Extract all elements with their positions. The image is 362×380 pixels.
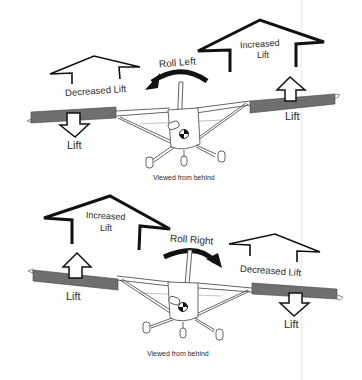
increased-lift-label-line2-bottom: Lift [100, 223, 112, 233]
decreased-lift-big-arrow-icon-bottom [229, 234, 320, 262]
increased-lift-label-line1-bottom: Increased [86, 210, 126, 222]
right-wing-lift-label-bottom: Lift [284, 318, 299, 330]
right-wing-lift-label: Lift [285, 110, 300, 122]
viewed-from-behind-caption: Viewed from behind [153, 174, 215, 181]
decreased-lift-big-arrow-icon [50, 56, 140, 84]
viewed-from-behind-caption-bottom: Viewed from behind [147, 350, 209, 357]
roll-left-arrow-icon [145, 72, 207, 90]
roll-right-arrow-icon [164, 251, 222, 268]
left-wing-lift-label-bottom: Lift [66, 290, 81, 302]
left-wing-lift-label: Lift [67, 139, 82, 151]
airplane-rear-view-icon-bottom [117, 250, 252, 340]
airplane-rear-view-icon [116, 82, 250, 168]
increased-lift-label-line2: Lift [257, 50, 269, 60]
